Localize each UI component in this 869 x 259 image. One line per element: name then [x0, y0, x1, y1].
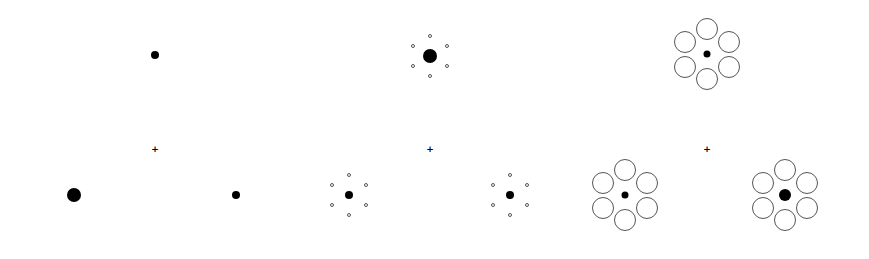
inducer-circle-icon [330, 183, 334, 187]
inducer-circle-icon [614, 159, 636, 181]
inducer-circle-icon [445, 44, 449, 48]
target-dot-icon [506, 191, 514, 199]
inducer-circle-icon [525, 203, 529, 207]
inducer-circle-icon [718, 31, 740, 53]
inducer-circle-icon [508, 173, 512, 177]
inducer-circle-icon [445, 64, 449, 68]
fixation-cross-icon: + [151, 145, 159, 154]
target-dot-icon [67, 188, 81, 202]
inducer-circle-icon [525, 183, 529, 187]
inducer-circle-icon [696, 18, 718, 40]
inducer-circle-icon [428, 34, 432, 38]
inducer-circle-icon [636, 172, 658, 194]
inducer-circle-icon [592, 197, 614, 219]
fixation-cross-icon: + [703, 145, 711, 154]
inducer-circle-icon [752, 197, 774, 219]
inducer-circle-icon [636, 197, 658, 219]
inducer-circle-icon [364, 183, 368, 187]
inducer-circle-icon [718, 56, 740, 78]
inducer-circle-icon [696, 68, 718, 90]
target-dot-icon [232, 191, 240, 199]
inducer-circle-icon [364, 203, 368, 207]
inducer-circle-icon [592, 172, 614, 194]
target-dot-icon [423, 49, 437, 63]
inducer-circle-icon [796, 197, 818, 219]
inducer-circle-icon [347, 173, 351, 177]
inducer-circle-icon [508, 213, 512, 217]
target-dot-icon [704, 51, 711, 58]
inducer-circle-icon [347, 213, 351, 217]
target-dot-icon [151, 51, 159, 59]
target-dot-icon [345, 191, 353, 199]
inducer-circle-icon [330, 203, 334, 207]
inducer-circle-icon [752, 172, 774, 194]
fixation-cross-icon: + [426, 145, 434, 154]
ebbinghaus-figure: +++ [0, 0, 869, 259]
inducer-circle-icon [411, 64, 415, 68]
inducer-circle-icon [411, 44, 415, 48]
inducer-circle-icon [614, 209, 636, 231]
inducer-circle-icon [491, 183, 495, 187]
target-dot-icon [779, 189, 791, 201]
inducer-circle-icon [491, 203, 495, 207]
inducer-circle-icon [674, 31, 696, 53]
inducer-circle-icon [428, 74, 432, 78]
inducer-circle-icon [774, 209, 796, 231]
inducer-circle-icon [774, 159, 796, 181]
inducer-circle-icon [796, 172, 818, 194]
inducer-circle-icon [674, 56, 696, 78]
target-dot-icon [622, 192, 629, 199]
